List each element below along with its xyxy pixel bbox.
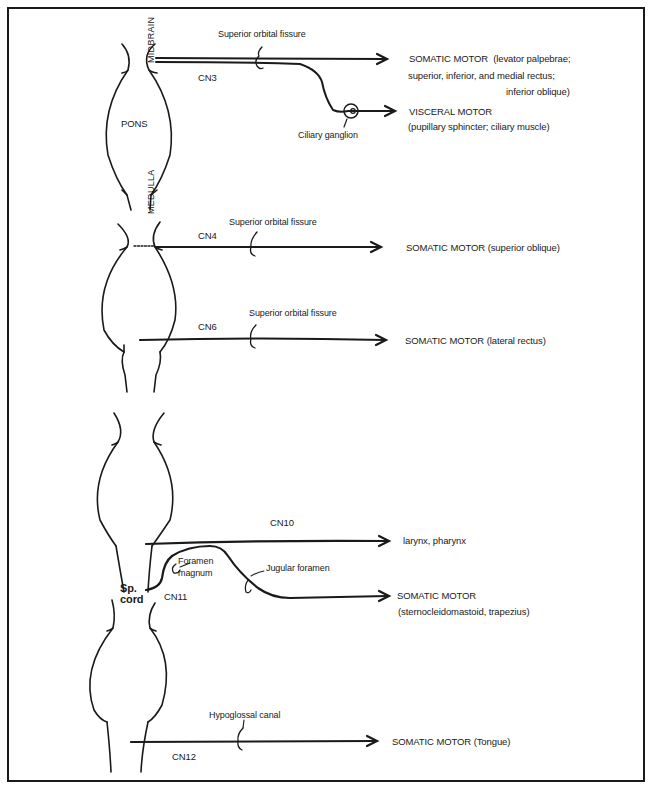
cn10-nerve	[146, 541, 388, 544]
cn3-somatic-nerve	[156, 58, 385, 59]
cn3-visceral-type: VISCERAL MOTOR	[409, 106, 492, 118]
cn10-target: larynx, pharynx	[403, 535, 466, 547]
ciliary-ganglion-label: Ciliary ganglion	[298, 129, 358, 141]
brainstem-outline-3	[97, 413, 172, 592]
cn4-label: CN4	[198, 230, 217, 242]
cn3-label: CN3	[198, 72, 217, 84]
cn12-label: CN12	[172, 751, 196, 763]
cn10-label: CN10	[270, 517, 294, 529]
cn3-visceral-detail: (pupillary sphincter; ciliary muscle)	[408, 121, 549, 133]
cn3-somatic-detail-1: (levator palpebrae;	[493, 53, 570, 64]
jugular-foramen-label: Jugular foramen	[266, 562, 330, 574]
brainstem-outline-4	[90, 600, 167, 772]
cn3-somatic-detail-3: inferior oblique)	[506, 86, 570, 98]
cn11-label: CN11	[164, 591, 187, 603]
cn3-somatic-target: SOMATIC MOTOR (levator palpebrae;	[409, 53, 571, 65]
cn3-foramen-label: Superior orbital fissure	[218, 28, 306, 40]
medulla-label: MEDULLA	[146, 169, 156, 214]
cn3-visceral-nerve	[156, 62, 393, 112]
cn3-somatic-type: SOMATIC MOTOR	[409, 53, 488, 64]
cn6-label: CN6	[198, 321, 217, 333]
cn11-target-detail: (sternocleidomastoid, trapezius)	[398, 606, 529, 618]
cn6-nerve	[140, 339, 385, 341]
cn12-nerve	[131, 741, 375, 742]
foramen-magnum-label-line1: Foramen	[178, 555, 213, 567]
cn12-foramen-label: Hypoglossal canal	[209, 709, 280, 721]
cn6-foramen-label: Superior orbital fissure	[249, 307, 337, 319]
cn3-somatic-detail-2: superior, inferior, and medial rectus;	[408, 70, 555, 82]
nerve-diagram	[0, 0, 650, 796]
cn4-target: SOMATIC MOTOR (superior oblique)	[406, 242, 560, 254]
cn11-target-type: SOMATIC MOTOR	[397, 590, 476, 602]
midbrain-label: MIDBRAIN	[146, 17, 156, 63]
cn6-target: SOMATIC MOTOR (lateral rectus)	[405, 335, 546, 347]
pons-label: PONS	[121, 118, 148, 130]
foramen-magnum-label-line2: magnum	[178, 567, 212, 579]
cn12-target: SOMATIC MOTOR (Tongue)	[392, 736, 510, 748]
cn4-foramen-label: Superior orbital fissure	[229, 216, 317, 228]
spinal-cord-label-line2: cord	[120, 594, 143, 605]
